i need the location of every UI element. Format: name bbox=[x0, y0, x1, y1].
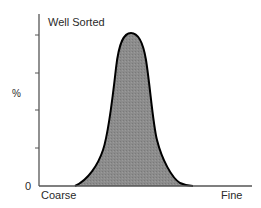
chart-title: Well Sorted bbox=[48, 17, 105, 28]
y-zero-label: 0 bbox=[25, 181, 31, 192]
distribution-area bbox=[75, 33, 193, 186]
y-axis-label: % bbox=[12, 89, 21, 99]
x-label-coarse: Coarse bbox=[41, 190, 76, 201]
x-label-fine: Fine bbox=[221, 190, 242, 201]
grain-size-chart bbox=[0, 0, 261, 208]
